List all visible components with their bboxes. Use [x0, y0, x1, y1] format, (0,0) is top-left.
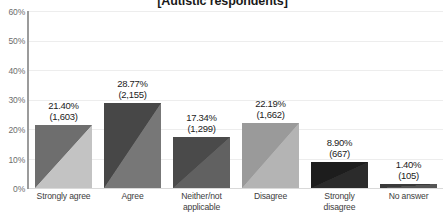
bar-value-count: (1,299) [186, 123, 216, 134]
y-axis-tick-label: 50% [9, 36, 25, 46]
x-axis-category-label: Agree [98, 191, 167, 202]
x-axis-category-label: Neither/notapplicable [167, 191, 236, 212]
x-axis-label-line: disagree [305, 202, 374, 213]
bar-data-label: 17.34%(1,299) [186, 112, 216, 134]
bar-chart: [Autistic respondents] 60% 50% 40% 30% 2… [0, 0, 445, 217]
bar-value-percent: 8.90% [327, 137, 352, 148]
bar-value-count: (2,155) [117, 89, 147, 100]
bar-column[interactable]: 17.34%(1,299) [173, 11, 230, 188]
y-axis-tick-label: 30% [9, 95, 25, 105]
y-axis-tick-labels: 60% 50% 40% 30% 20% 10% 0% [0, 0, 25, 217]
bar-highlight-triangle [242, 123, 299, 188]
chart-title: [Autistic respondents] [0, 0, 445, 8]
y-axis-tick-label: 40% [9, 66, 25, 76]
bar[interactable] [173, 137, 230, 188]
bar-value-count: (1,662) [255, 109, 285, 120]
bar[interactable] [380, 184, 437, 188]
axis-baseline [29, 188, 443, 189]
bar-value-count: (1,603) [48, 111, 78, 122]
bar-series: 21.40%(1,603)28.77%(2,155)17.34%(1,299)2… [29, 11, 443, 188]
x-axis-category-label: Stronglydisagree [305, 191, 374, 212]
y-axis-tick-label: 10% [9, 155, 25, 165]
y-axis-tick-label: 60% [9, 7, 25, 17]
bar-column[interactable]: 1.40%(105) [380, 11, 437, 188]
x-axis-category-labels: Strongly agreeAgreeNeither/notapplicable… [29, 191, 443, 217]
bar-highlight-triangle [35, 125, 92, 188]
bar-highlight-triangle [173, 137, 230, 188]
x-axis-label-line: Strongly agree [29, 191, 98, 202]
bar-column[interactable]: 22.19%(1,662) [242, 11, 299, 188]
x-axis-label-line: applicable [167, 202, 236, 213]
x-axis-category-label: Disagree [236, 191, 305, 202]
bar[interactable] [242, 123, 299, 188]
y-axis-tick-label: 20% [9, 125, 25, 135]
x-axis-label-line: Neither/not [167, 191, 236, 202]
x-axis-category-label: Strongly agree [29, 191, 98, 202]
x-axis-label-line: Strongly [305, 191, 374, 202]
bar-highlight-triangle [104, 103, 161, 188]
bar-data-label: 8.90%(667) [327, 137, 352, 159]
bar-data-label: 22.19%(1,662) [255, 98, 285, 120]
y-axis-tick-label: 0% [13, 184, 25, 194]
bar-highlight-triangle [311, 162, 368, 188]
bar[interactable] [311, 162, 368, 188]
bar-column[interactable]: 28.77%(2,155) [104, 11, 161, 188]
bar-value-percent: 21.40% [48, 100, 78, 111]
bar-data-label: 28.77%(2,155) [117, 78, 147, 100]
bar-value-percent: 1.40% [396, 159, 421, 170]
bar-column[interactable]: 21.40%(1,603) [35, 11, 92, 188]
bar-data-label: 1.40%(105) [396, 159, 421, 181]
bar[interactable] [35, 125, 92, 188]
bar-value-percent: 17.34% [186, 112, 216, 123]
bar-value-count: (667) [327, 148, 352, 159]
bar-data-label: 21.40%(1,603) [48, 100, 78, 122]
bar[interactable] [104, 103, 161, 188]
bar-value-percent: 22.19% [255, 98, 285, 109]
bar-highlight-triangle [380, 184, 437, 188]
x-axis-label-line: Disagree [236, 191, 305, 202]
x-axis-label-line: No answer [374, 191, 443, 202]
bar-value-count: (105) [396, 170, 421, 181]
bar-column[interactable]: 8.90%(667) [311, 11, 368, 188]
x-axis-label-line: Agree [98, 191, 167, 202]
bar-value-percent: 28.77% [117, 78, 147, 89]
x-axis-category-label: No answer [374, 191, 443, 202]
